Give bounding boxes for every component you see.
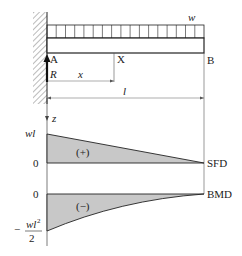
sfd-sign: (+) <box>76 146 90 159</box>
svg-text:2: 2 <box>29 232 35 244</box>
z-axis-label: z <box>51 112 57 124</box>
reaction-label: R <box>49 68 57 80</box>
bending-moment-diagram <box>47 194 204 231</box>
sfd-max-label: wl <box>25 127 35 139</box>
section-label-x: X <box>117 53 125 65</box>
length-label: l <box>123 85 126 97</box>
beam-diagram: w A R X B x l z wl 0 (+) SFD 0 (−) B <box>0 0 242 256</box>
bmd-min-label: − wl 2 2 <box>14 217 42 244</box>
fixed-wall <box>33 12 47 104</box>
shear-force-diagram <box>47 134 204 163</box>
sfd-label: SFD <box>207 157 227 169</box>
distributed-load <box>47 25 204 38</box>
support-label-a: A <box>50 53 58 65</box>
bmd-sign: (−) <box>76 200 90 213</box>
end-label-b: B <box>207 54 214 66</box>
svg-text:wl: wl <box>26 218 36 230</box>
beam <box>47 38 204 53</box>
bmd-label: BMD <box>207 188 232 200</box>
bmd-zero-label: 0 <box>33 188 39 200</box>
sfd-zero-label: 0 <box>33 157 39 169</box>
svg-text:2: 2 <box>37 217 41 225</box>
svg-text:−: − <box>14 223 20 235</box>
distance-label: x <box>77 68 83 80</box>
load-label: w <box>188 11 196 23</box>
